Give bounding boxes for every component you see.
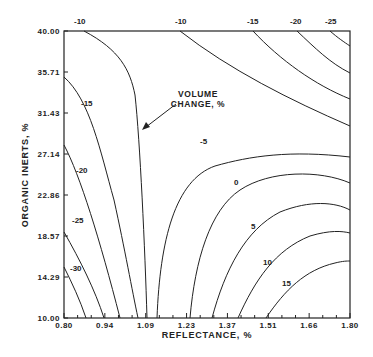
x-axis-ticks: 0.800.941.091.231.371.511.661.80 — [55, 313, 359, 330]
volume-change-annotation: VOLUME CHANGE, % — [142, 89, 225, 130]
contour-label: -20 — [290, 17, 302, 26]
contour-line — [157, 154, 350, 318]
contour-line — [212, 204, 350, 319]
contour-label: -25 — [72, 216, 84, 225]
x-tick-label: 1.51 — [259, 321, 277, 330]
contour-label: -15 — [247, 17, 259, 26]
y-tick-label: 22.86 — [37, 191, 60, 200]
contour-line — [64, 232, 104, 318]
contour-label: 10 — [263, 258, 272, 267]
contour-label: -25 — [325, 17, 337, 26]
contour-line — [180, 31, 350, 126]
x-tick-label: 1.23 — [178, 321, 196, 330]
contour-line — [253, 31, 350, 99]
contour-line — [64, 145, 120, 318]
contour-label: 15 — [282, 279, 291, 288]
contour-lines — [64, 31, 350, 318]
contour-line — [266, 261, 350, 318]
contour-label: -30 — [70, 264, 82, 273]
x-tick-label: 1.37 — [219, 321, 237, 330]
x-tick-label: 1.09 — [137, 321, 155, 330]
contour-label: -15 — [81, 99, 93, 108]
y-axis-title: ORGANIC INERTS, % — [20, 123, 30, 228]
x-tick-label: 0.80 — [55, 321, 73, 330]
x-tick-label: 1.66 — [300, 321, 318, 330]
annotation-arrow-line — [146, 104, 176, 127]
contour-label: -10 — [175, 17, 187, 26]
x-tick-label: 0.94 — [96, 321, 114, 330]
contour-label: -20 — [76, 166, 88, 175]
contour-line — [84, 31, 147, 318]
annotation-line-1: VOLUME — [178, 89, 218, 99]
x-axis-title: REFLECTANCE, % — [162, 330, 253, 340]
y-tick-label: 40.00 — [37, 27, 60, 36]
y-tick-label: 14.29 — [37, 273, 60, 282]
contour-line — [64, 77, 138, 318]
annotation-line-2: CHANGE, % — [171, 99, 226, 109]
contour-label: 5 — [251, 222, 256, 231]
y-tick-label: 27.14 — [37, 150, 60, 159]
contour-line — [238, 231, 350, 318]
y-tick-label: 18.57 — [37, 232, 60, 241]
contour-line — [190, 174, 350, 318]
contour-line — [64, 267, 86, 318]
contour-line — [330, 31, 350, 46]
contour-label: -5 — [200, 137, 208, 146]
contour-chart: 40.0035.7131.4327.1422.8618.5714.2910.00… — [0, 0, 373, 357]
y-tick-label: 35.71 — [37, 68, 60, 77]
x-tick-label: 1.80 — [341, 321, 359, 330]
contour-label: 0 — [234, 178, 239, 187]
contour-labels: -30-25-20-15-10-10-15-20-25-5051015 — [70, 17, 337, 288]
contour-label: -10 — [74, 17, 86, 26]
arrow-head-icon — [142, 122, 150, 130]
y-tick-label: 31.43 — [37, 109, 60, 118]
contour-line — [297, 31, 350, 73]
